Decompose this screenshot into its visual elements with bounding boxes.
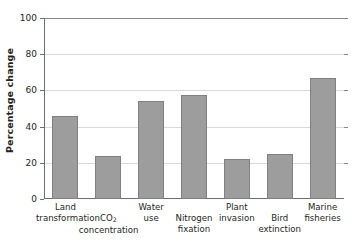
bar-land-transformation <box>52 116 78 199</box>
y-tick-label-60: 60 <box>26 85 37 95</box>
y-tick-right-100 <box>344 18 348 19</box>
bar-nitrogen-fixation <box>181 95 207 199</box>
bar-water-use <box>138 101 164 199</box>
y-tick-right-60 <box>344 90 348 91</box>
y-tick-label-100: 100 <box>20 13 37 23</box>
y-tick-right-20 <box>344 163 348 164</box>
bar-bird-extinction <box>267 154 293 199</box>
x-axis-label-line1: Marine <box>293 202 352 213</box>
bars-layer <box>44 18 344 199</box>
x-axis-label-line2: concentration <box>79 225 138 236</box>
x-axis-label-line2: extinction <box>250 224 309 235</box>
bar-marine-fisheries <box>310 78 336 199</box>
y-tick-label-40: 40 <box>26 122 37 132</box>
y-axis-title-text: Percentage change <box>4 48 15 153</box>
y-tick-right-40 <box>344 127 348 128</box>
x-axis-label-line2: fisheries <box>293 213 352 224</box>
y-tick-right-80 <box>344 54 348 55</box>
x-axis-label-subscript: 2 <box>113 216 117 223</box>
y-tick-label-20: 20 <box>26 158 37 168</box>
plot-area: 020406080100 <box>44 18 344 199</box>
bar-chart-figure: Percentage change 020406080100 Landtrans… <box>0 0 352 247</box>
x-axis-labels: LandtransformationCO2concentrationWateru… <box>44 200 344 247</box>
x-axis-label-line2: fixation <box>165 224 224 235</box>
y-axis-title: Percentage change <box>0 0 18 200</box>
bar-co2-concentration <box>95 156 121 199</box>
y-tick-label-80: 80 <box>26 49 37 59</box>
x-axis-label-marine-fisheries: Marinefisheries <box>293 200 352 224</box>
bar-plant-invasion <box>224 159 250 199</box>
